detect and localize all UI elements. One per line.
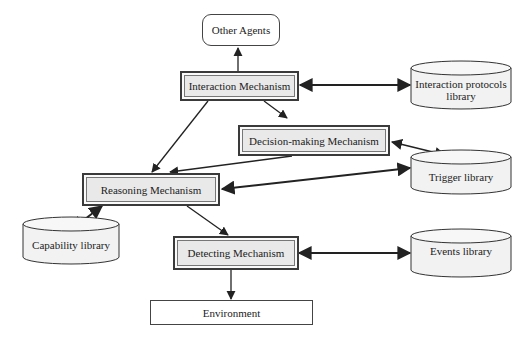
edge-interaction-to-decision	[264, 101, 287, 118]
node-trigger-library: Trigger library	[411, 156, 511, 190]
node-detecting-mechanism: Detecting Mechanism	[173, 236, 299, 270]
edge-reasoning-trigger-lib	[222, 168, 410, 189]
node-capability-library: Capability library	[23, 224, 119, 258]
node-interaction-protocols-library: Interaction protocols library	[411, 66, 511, 106]
node-label: Environment	[203, 307, 260, 319]
node-label: Reasoning Mechanism	[101, 184, 202, 196]
node-label: Interaction Mechanism	[189, 80, 291, 92]
node-label: Decision-making Mechanism	[249, 135, 379, 147]
node-environment: Environment	[150, 300, 313, 325]
node-label: Detecting Mechanism	[188, 247, 285, 259]
node-label: Trigger library	[429, 163, 494, 183]
edge-decision-to-reasoning	[170, 156, 292, 172]
edge-reasoning-to-detecting	[187, 206, 228, 235]
node-other-agents: Other Agents	[202, 14, 280, 46]
node-reasoning-mechanism: Reasoning Mechanism	[82, 173, 220, 206]
node-label: Events library	[430, 237, 492, 257]
node-decision-making-mechanism: Decision-making Mechanism	[238, 125, 390, 156]
node-label: Capability library	[32, 231, 110, 251]
node-interaction-mechanism: Interaction Mechanism	[180, 71, 299, 101]
edge-interaction-to-reasoning	[152, 101, 208, 172]
node-events-library: Events library	[411, 232, 511, 262]
node-label: Interaction protocols library	[411, 70, 511, 102]
node-label: Other Agents	[212, 24, 270, 36]
